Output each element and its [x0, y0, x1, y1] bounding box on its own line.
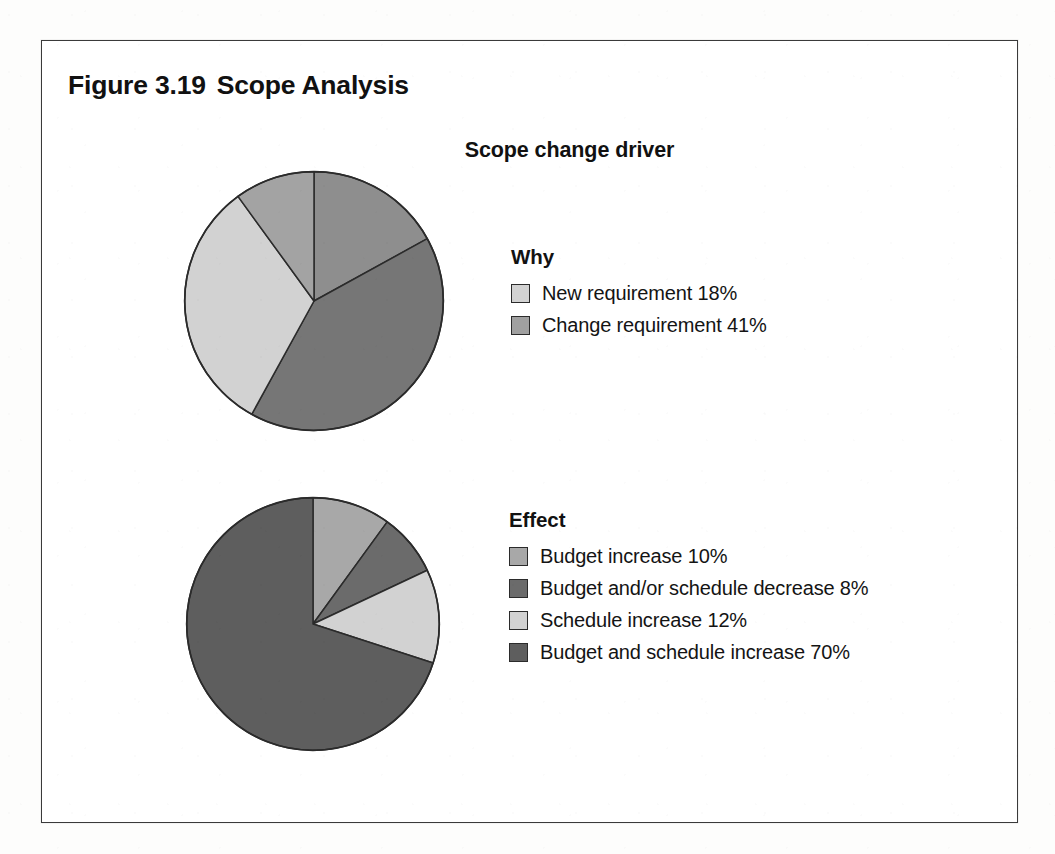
figure-title: Figure 3.19Scope Analysis [68, 70, 409, 101]
legend-effect-items: Budget increase 10%Budget and/or schedul… [509, 540, 868, 668]
pie-effect-slices [187, 498, 440, 751]
legend-label: Budget increase 10% [540, 545, 727, 568]
legend-item: Schedule increase 12% [509, 604, 868, 636]
figure-frame: Figure 3.19Scope Analysis Scope change d… [41, 40, 1018, 823]
legend-swatch [509, 579, 528, 598]
pie-why-slices [185, 172, 444, 431]
legend-effect-title: Effect [509, 508, 868, 532]
legend-item: Budget increase 10% [509, 540, 868, 572]
legend-label: Change requirement 41% [542, 314, 767, 337]
pie-effect-svg [185, 496, 441, 752]
scanned-page: Figure 3.19Scope Analysis Scope change d… [0, 0, 1055, 854]
legend-label: New requirement 18% [542, 282, 737, 305]
pie-chart-why [183, 170, 445, 432]
legend-effect: Effect Budget increase 10%Budget and/or … [509, 508, 868, 668]
legend-why-items: New requirement 18%Change requirement 41… [511, 277, 767, 341]
pie-why-svg [183, 170, 445, 432]
chart-heading: Scope change driver [42, 138, 1019, 163]
legend-swatch [511, 284, 530, 303]
legend-swatch [509, 611, 528, 630]
legend-item: Budget and/or schedule decrease 8% [509, 572, 868, 604]
legend-label: Schedule increase 12% [540, 609, 747, 632]
legend-item: New requirement 18% [511, 277, 767, 309]
legend-item: Budget and schedule increase 70% [509, 636, 868, 668]
figure-name: Scope Analysis [217, 70, 409, 100]
legend-swatch [509, 547, 528, 566]
legend-why: Why New requirement 18%Change requiremen… [511, 245, 767, 341]
legend-swatch [511, 316, 530, 335]
legend-item: Change requirement 41% [511, 309, 767, 341]
legend-swatch [509, 643, 528, 662]
legend-why-title: Why [511, 245, 767, 269]
figure-number: Figure 3.19 [68, 70, 206, 100]
legend-label: Budget and schedule increase 70% [540, 641, 850, 664]
legend-label: Budget and/or schedule decrease 8% [540, 577, 868, 600]
pie-chart-effect [185, 496, 441, 752]
